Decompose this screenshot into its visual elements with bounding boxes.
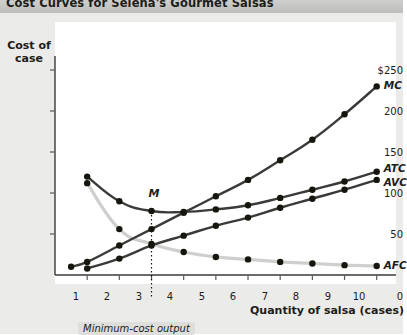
curve-label-afc: AFC [384,259,407,271]
m-point-label: M [149,187,160,200]
chart-panel: Cost of case Quantity of salsa (cases) $… [0,13,403,334]
figure-title: Cost Curves for Selena's Gourmet Salsas [6,0,274,10]
curve-label-mc: MC [384,79,402,91]
curve-label-avc: AVC [384,176,407,188]
minimum-cost-output-annotation: Minimum-cost output [78,322,195,335]
curve-label-atc: ATC [384,162,406,174]
plot-svg [0,13,403,334]
figure-title-bar: Cost Curves for Selena's Gourmet Salsas [0,0,403,13]
